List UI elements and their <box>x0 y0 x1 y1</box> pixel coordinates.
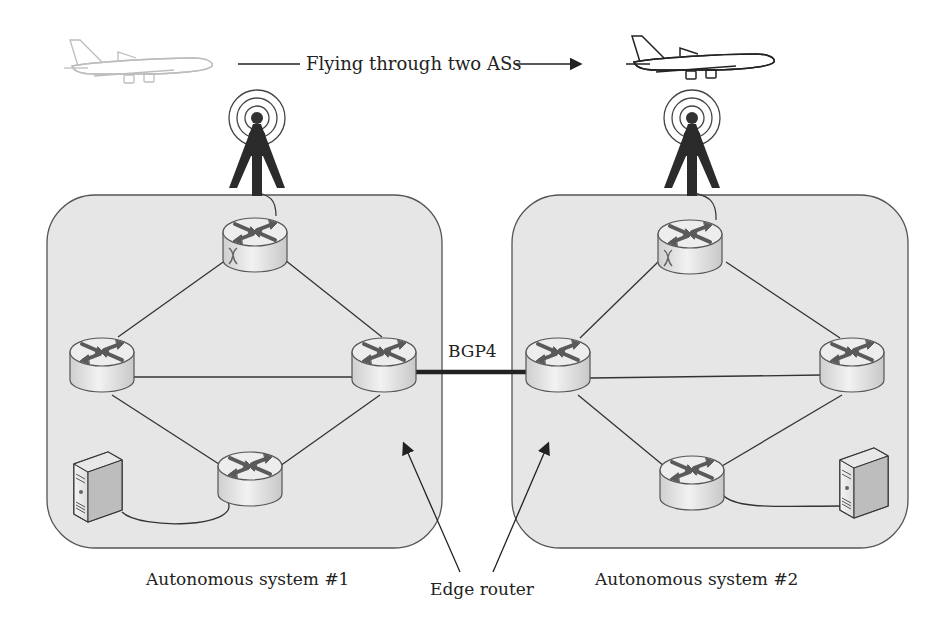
airplane-icon-right <box>626 36 774 79</box>
autonomous-system-2-label: Autonomous system #2 <box>594 569 798 589</box>
router-icon-as1-bottom <box>218 452 282 506</box>
router-icon-as2-bottom <box>660 456 724 510</box>
diagram-title: Flying through two ASs <box>306 53 521 74</box>
airplane-icon-left <box>64 40 212 83</box>
router-icon-as1-edge <box>352 338 416 392</box>
autonomous-system-1-label: Autonomous system #1 <box>145 569 349 589</box>
server-icon-as1 <box>74 452 122 522</box>
router-icon-as2-top <box>658 220 722 274</box>
bgp4-label: BGP4 <box>448 341 497 361</box>
router-icon-as1-left <box>70 338 134 392</box>
router-icon-as2-edge <box>526 338 590 392</box>
router-icon-as2-right <box>820 338 884 392</box>
radio-tower-icon-as2 <box>664 90 720 196</box>
edge-router-label: Edge router <box>430 579 535 599</box>
server-icon-as2 <box>840 448 888 518</box>
network-diagram: Flying through two ASs BGP4 <box>0 0 951 620</box>
router-icon-as1-top <box>223 218 287 272</box>
radio-tower-icon-as1 <box>229 90 285 196</box>
